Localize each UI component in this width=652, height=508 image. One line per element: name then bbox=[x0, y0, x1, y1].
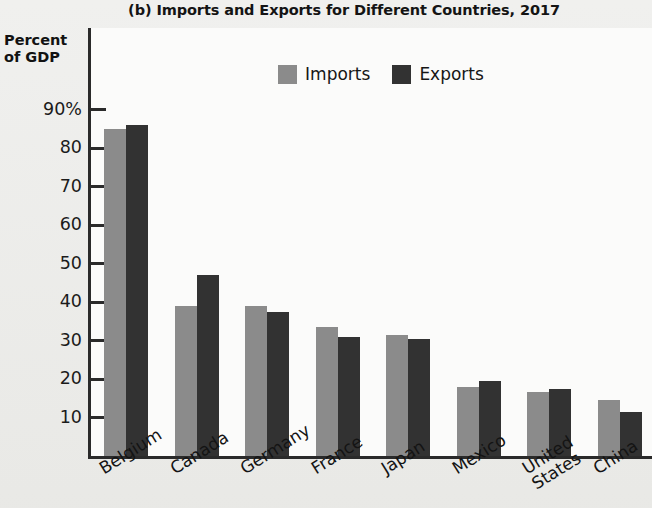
bar-imports bbox=[104, 129, 126, 456]
y-tick-label: 60 bbox=[60, 214, 82, 234]
bar-group bbox=[585, 28, 652, 456]
bar-group bbox=[91, 28, 162, 456]
legend-item: Imports bbox=[278, 64, 370, 84]
legend-label: Imports bbox=[305, 64, 370, 84]
x-axis-labels: BelgiumCanadaGermanyFranceJapanMexicoUni… bbox=[88, 462, 652, 508]
bar-group bbox=[373, 28, 444, 456]
y-tick-label: 20 bbox=[60, 368, 82, 388]
y-tick-label: 10 bbox=[60, 407, 82, 427]
chart-page: (b) Imports and Exports for Different Co… bbox=[0, 0, 652, 508]
y-tick-label: 50 bbox=[60, 253, 82, 273]
y-axis-title: Percent of GDP bbox=[4, 32, 82, 66]
y-tick-label: 90% bbox=[43, 99, 82, 119]
bar-imports bbox=[175, 306, 197, 456]
legend-swatch-imports bbox=[278, 65, 297, 84]
chart-title: (b) Imports and Exports for Different Co… bbox=[0, 2, 652, 18]
legend-swatch-exports bbox=[392, 65, 411, 84]
y-tick-label: 30 bbox=[60, 330, 82, 350]
bar-group bbox=[514, 28, 585, 456]
chart-legend: ImportsExports bbox=[0, 64, 652, 84]
bar-group bbox=[303, 28, 374, 456]
bar-exports bbox=[126, 125, 148, 456]
bar-group bbox=[444, 28, 515, 456]
plot-frame: 102030405060708090% bbox=[88, 28, 652, 459]
y-axis-title-line1: Percent bbox=[4, 32, 67, 48]
plot-area: 102030405060708090% bbox=[91, 28, 652, 456]
bar-imports bbox=[386, 335, 408, 456]
bar-group bbox=[162, 28, 233, 456]
y-tick-label: 80 bbox=[60, 137, 82, 157]
legend-label: Exports bbox=[419, 64, 484, 84]
bar-group bbox=[232, 28, 303, 456]
legend-item: Exports bbox=[392, 64, 484, 84]
y-tick-label: 70 bbox=[60, 176, 82, 196]
bar-exports bbox=[197, 275, 219, 456]
y-axis-title-line2: of GDP bbox=[4, 49, 60, 65]
bar-imports bbox=[316, 327, 338, 456]
bar-imports bbox=[245, 306, 267, 456]
y-tick-label: 40 bbox=[60, 291, 82, 311]
